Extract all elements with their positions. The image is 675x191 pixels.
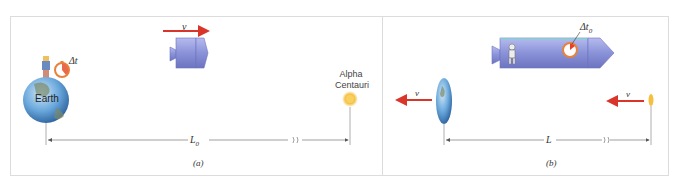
figure-graphics [0, 0, 675, 191]
distance-subscript: 0 [196, 140, 200, 148]
clock-label-b: Δt0 [580, 21, 592, 35]
star-label-line2: Centauri [335, 80, 369, 90]
earth-observer-icon [42, 56, 50, 78]
spaceship-short-icon [170, 38, 208, 68]
star-label: Alpha Centauri [335, 69, 367, 91]
clock-symbol: Δt [580, 21, 589, 32]
clock-subscript: 0 [589, 27, 593, 35]
caption-b: (b) [546, 158, 557, 168]
earth-label: Earth [35, 93, 59, 104]
distance-label-L: L [546, 134, 552, 145]
velocity-label-star: v [626, 89, 630, 99]
clock-label-a: Δt [69, 55, 78, 66]
velocity-label-ship: v [182, 21, 186, 32]
contracted-star-icon [649, 94, 654, 106]
caption-a: (a) [193, 158, 204, 168]
star-label-line1: Alpha [339, 69, 362, 79]
star-alpha-centauri-icon [342, 91, 358, 107]
velocity-label-earth: v [415, 88, 419, 98]
contracted-earth-icon [436, 78, 452, 124]
distance-label-L0: L0 [190, 134, 199, 148]
stopwatch-icon [55, 61, 69, 77]
